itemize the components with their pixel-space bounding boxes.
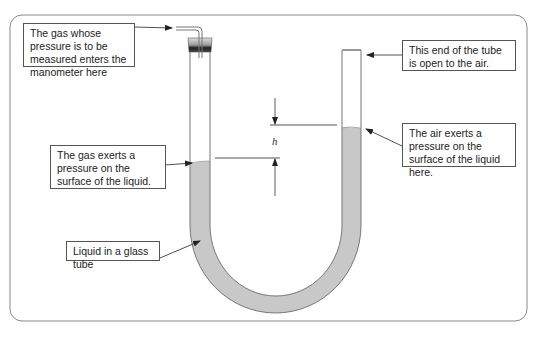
open-end-label: This end of the tube is open to the air. (402, 40, 516, 71)
gas-inlet-label: The gas whose pressure is to be measured… (23, 23, 135, 67)
air-pressure-label: The air exerts a pressure on the surface… (402, 123, 516, 167)
manometer-diagram: The gas whose pressure is to be measured… (0, 0, 538, 338)
liquid-column (190, 127, 361, 313)
gas-pressure-label: The gas exerts a pressure on the surface… (50, 145, 166, 189)
stopper (188, 38, 212, 52)
liquid-label: Liquid in a glass tube (66, 241, 160, 261)
height-label: h (272, 135, 278, 147)
